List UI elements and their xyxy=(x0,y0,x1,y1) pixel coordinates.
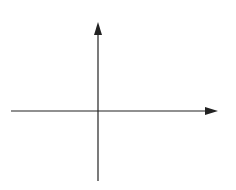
x-axis-arrow-icon xyxy=(205,107,218,115)
axes xyxy=(11,22,218,181)
y-axis-arrow-icon xyxy=(94,22,102,35)
function-graph xyxy=(0,0,236,190)
